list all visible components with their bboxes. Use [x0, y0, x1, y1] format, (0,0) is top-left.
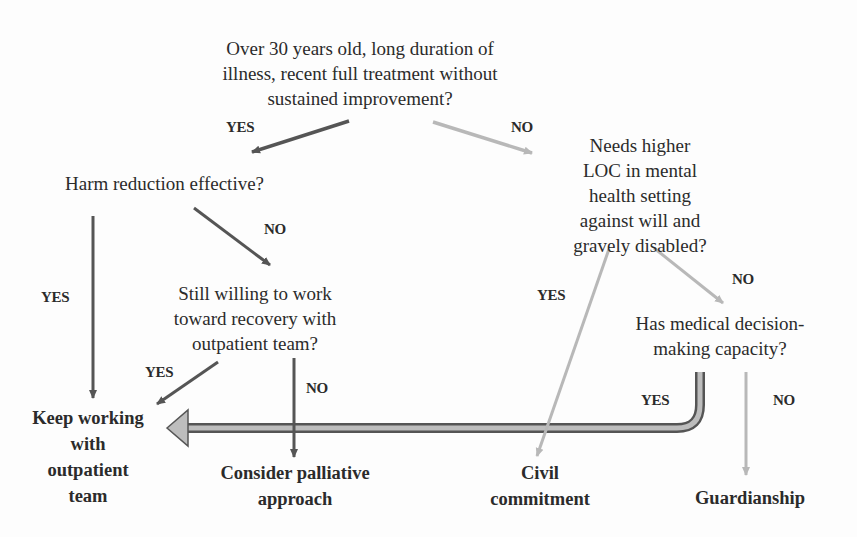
label-willing-yes: YES — [145, 364, 173, 381]
node-guardianship: Guardianship — [675, 485, 825, 511]
arrow-harm-no — [194, 208, 270, 265]
arrow-root-yes — [252, 121, 349, 152]
arrow-capacity-yes-fill — [186, 372, 700, 428]
label-harm-yes: YES — [41, 289, 69, 306]
label-root-yes: YES — [226, 119, 254, 136]
label-capacity-no: NO — [773, 392, 795, 409]
node-harm-reduction-question: Harm reduction effective? — [30, 171, 335, 196]
node-civil-commitment: Civil commitment — [480, 460, 600, 512]
label-loc-no: NO — [732, 271, 754, 288]
node-consider-palliative: Consider palliative approach — [200, 460, 390, 512]
node-has-capacity-question: Has medical decision- making capacity? — [600, 311, 840, 361]
label-willing-no: NO — [306, 380, 328, 397]
node-needs-higher-loc-question: Needs higher LOC in mental health settin… — [560, 133, 720, 258]
node-root-question: Over 30 years old, long duration of illn… — [210, 36, 510, 111]
arrow-capacity-yes-head — [167, 410, 188, 446]
node-still-willing-question: Still willing to work toward recovery wi… — [150, 281, 360, 356]
label-root-no: NO — [511, 119, 533, 136]
label-loc-yes: YES — [537, 287, 565, 304]
node-keep-working: Keep working with outpatient team — [18, 405, 158, 509]
flowchart-canvas: Over 30 years old, long duration of illn… — [0, 0, 857, 537]
arrow-capacity-yes-border — [186, 372, 700, 428]
label-harm-no: NO — [264, 221, 286, 238]
label-capacity-yes: YES — [641, 392, 669, 409]
